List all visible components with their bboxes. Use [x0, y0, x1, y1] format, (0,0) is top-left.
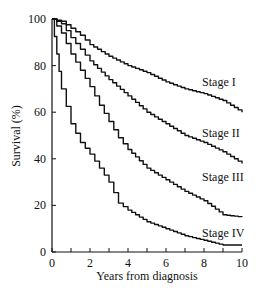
y-axis-title: Survival (%): [9, 105, 23, 167]
x-tick-label: 2: [87, 256, 93, 270]
y-tick-label: 40: [34, 152, 46, 166]
series-label-3: Stage III: [202, 170, 244, 184]
series-label-2: Stage II: [202, 126, 240, 140]
x-tick-label: 4: [125, 256, 131, 270]
series-label-1: Stage I: [202, 75, 236, 89]
y-tick-label: 60: [34, 105, 46, 119]
x-axis: 0246810: [49, 248, 248, 270]
x-tick-label: 8: [201, 256, 207, 270]
x-axis-title: Years from diagnosis: [96, 269, 198, 283]
y-tick-label: 20: [34, 198, 46, 212]
x-tick-label: 10: [236, 256, 248, 270]
survival-chart: 020406080100 0246810 Survival (%) Years …: [0, 0, 256, 294]
y-tick-label: 100: [28, 12, 46, 26]
y-axis: 020406080100: [28, 12, 56, 259]
x-tick-label: 0: [49, 256, 55, 270]
series-label-4: Stage IV: [202, 226, 245, 240]
y-tick-label: 0: [40, 245, 46, 259]
x-tick-label: 6: [163, 256, 169, 270]
y-tick-label: 80: [34, 59, 46, 73]
